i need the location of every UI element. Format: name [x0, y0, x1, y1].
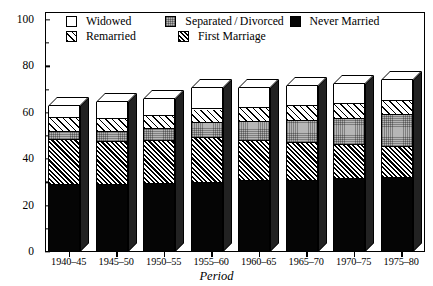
bar-segment-firstmar	[49, 140, 79, 185]
x-axis-title: Period	[0, 269, 433, 284]
bar-stack[interactable]	[191, 20, 223, 252]
bar-front-face	[381, 80, 413, 252]
bar-segment-firstmar	[382, 147, 412, 178]
bar-side-face	[413, 71, 422, 252]
bar-segment-sepdiv	[192, 123, 222, 138]
bar-front-face	[191, 88, 223, 252]
bar-front-face	[48, 106, 80, 252]
x-tick-label: 1940–45	[51, 256, 86, 267]
bar-side-face	[270, 79, 279, 252]
x-tick-label: 1960–65	[241, 256, 276, 267]
bar-segment-firstmar	[192, 138, 222, 182]
bar-segment-sepdiv	[239, 122, 269, 141]
bar-segment-widowed	[334, 83, 364, 104]
bar-segment-never	[334, 179, 364, 251]
bar-side-face	[128, 93, 137, 252]
bar-segment-widowed	[239, 87, 269, 108]
bar-segment-widowed	[382, 79, 412, 101]
bar-stack[interactable]	[238, 20, 270, 252]
y-tick-label: 80	[8, 61, 34, 73]
bar-stack[interactable]	[96, 20, 128, 252]
bar-stack[interactable]	[143, 20, 175, 252]
bar-side-face	[318, 77, 327, 252]
bar-stack[interactable]	[48, 20, 80, 252]
bar-segment-remarried	[192, 110, 222, 124]
bar-segment-remarried	[49, 118, 79, 132]
bar-segment-widowed	[144, 98, 174, 117]
bar-segment-remarried	[382, 101, 412, 115]
x-tick-label: 1950–55	[146, 256, 181, 267]
y-tick-label: 60	[8, 107, 34, 119]
bar-stack[interactable]	[381, 20, 413, 252]
y-tick-label: 20	[8, 200, 34, 212]
bar-side-face	[223, 79, 232, 252]
bar-segment-widowed	[192, 87, 222, 109]
bar-side-face	[175, 90, 184, 252]
bar-segment-firstmar	[334, 145, 364, 179]
bar-front-face	[96, 102, 128, 252]
bar-segment-widowed	[287, 85, 317, 106]
x-tick-label: 1975–80	[384, 256, 419, 267]
x-tick-label: 1965–70	[289, 256, 324, 267]
bar-segment-widowed	[97, 101, 127, 118]
bar-segment-sepdiv	[334, 119, 364, 146]
bar-front-face	[286, 86, 318, 252]
bar-segment-never	[144, 184, 174, 251]
y-tick-label: 40	[8, 153, 34, 165]
y-tick-label: 0	[8, 246, 34, 258]
bar-segment-sepdiv	[49, 132, 79, 140]
bar-stack[interactable]	[333, 20, 365, 252]
bar-segment-firstmar	[287, 143, 317, 181]
bar-segment-sepdiv	[287, 121, 317, 143]
bar-front-face	[143, 99, 175, 252]
bar-segment-firstmar	[144, 141, 174, 184]
bar-segment-remarried	[239, 108, 269, 122]
bar-segment-remarried	[144, 116, 174, 129]
bar-front-face	[333, 84, 365, 252]
bar-segment-sepdiv	[144, 129, 174, 141]
bar-segment-widowed	[49, 105, 79, 118]
bar-segment-never	[49, 185, 79, 251]
legend-item[interactable]: Separated / Divorced	[165, 15, 289, 28]
bar-segment-remarried	[97, 119, 127, 132]
bar-segment-remarried	[334, 104, 364, 119]
bar-front-face	[238, 88, 270, 252]
bar-stack[interactable]	[286, 20, 318, 252]
bar-segment-never	[287, 181, 317, 251]
bar-segment-never	[97, 185, 127, 251]
x-tick-label: 1970–75	[336, 256, 371, 267]
legend-swatch-icon	[178, 31, 189, 42]
x-tick-label: 1955–60	[194, 256, 229, 267]
bar-segment-firstmar	[239, 141, 269, 182]
bar-segment-never	[192, 183, 222, 251]
x-tick-label: 1945–50	[99, 256, 134, 267]
bar-side-face	[80, 97, 89, 252]
bar-segment-sepdiv	[97, 132, 127, 142]
bar-segment-never	[239, 181, 269, 251]
bar-segment-never	[382, 178, 412, 251]
bar-segment-firstmar	[97, 142, 127, 185]
bar-segment-sepdiv	[382, 115, 412, 146]
bar-side-face	[365, 75, 374, 252]
chart-figure: Years of Life WidowedSeparated / Divorce…	[0, 0, 433, 286]
bar-segment-remarried	[287, 106, 317, 121]
y-tick-label: 100	[8, 14, 34, 26]
